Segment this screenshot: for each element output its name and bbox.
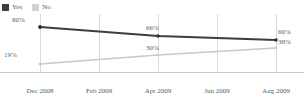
legend-item-yes[interactable]: Yes	[2, 4, 22, 11]
chart-legend: Yes No	[2, 1, 51, 13]
legend-label-no: No	[42, 4, 51, 11]
x-tick-label: Jun 2009	[204, 88, 229, 95]
legend-swatch-icon	[2, 4, 9, 11]
x-tick-label: Apr 2009	[145, 88, 172, 95]
x-axis: Dec 2008 Feb 2009 Apr 2009 Jun 2009 Aug …	[0, 88, 304, 102]
line-chart: Yes No	[0, 0, 304, 106]
gridlines	[41, 14, 277, 72]
data-label-no-end: 38%	[278, 39, 291, 46]
legend-swatch-icon	[32, 4, 39, 11]
legend-label-yes: Yes	[12, 4, 22, 11]
x-tick-label: Feb 2009	[86, 88, 112, 95]
data-label-yes-start: 80%	[12, 17, 25, 24]
x-tick-label: Dec 2008	[26, 88, 53, 95]
data-label-yes-end: 60%	[278, 29, 291, 36]
plot-area: 80% 66% 60% 19% 30% 38%	[0, 14, 304, 86]
data-label-no-mid: 30%	[146, 45, 159, 52]
x-tick-label: Aug 2009	[262, 88, 290, 95]
legend-item-no[interactable]: No	[32, 4, 51, 11]
data-label-no-start: 19%	[4, 52, 17, 59]
data-label-yes-mid: 66%	[146, 25, 159, 32]
